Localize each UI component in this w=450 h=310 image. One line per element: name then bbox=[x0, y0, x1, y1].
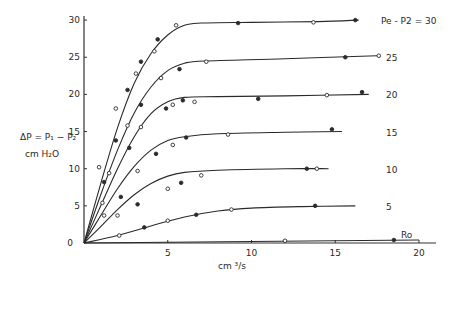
data-point bbox=[305, 167, 309, 171]
x-tick-label: 5 bbox=[165, 248, 171, 258]
data-point bbox=[143, 226, 147, 230]
data-point bbox=[315, 167, 319, 171]
data-point bbox=[153, 50, 157, 54]
data-point bbox=[136, 169, 140, 173]
curve-5 bbox=[84, 206, 355, 243]
data-point bbox=[166, 219, 170, 223]
x-tick-label: 10 bbox=[246, 248, 258, 258]
data-point bbox=[325, 93, 329, 97]
data-point bbox=[159, 76, 163, 80]
x-tick-label: 20 bbox=[413, 248, 425, 258]
series-label: 5 bbox=[386, 202, 392, 212]
data-point bbox=[126, 124, 130, 128]
data-point bbox=[181, 99, 185, 103]
data-point bbox=[360, 90, 364, 94]
data-point bbox=[154, 152, 158, 156]
x-tick-label: 15 bbox=[330, 248, 341, 258]
data-point bbox=[194, 213, 198, 217]
data-point bbox=[114, 107, 118, 111]
data-point bbox=[114, 139, 118, 143]
x-axis-label: cm ³/s bbox=[218, 261, 246, 271]
data-point bbox=[204, 60, 208, 64]
data-point bbox=[171, 143, 175, 147]
data-point bbox=[179, 181, 183, 185]
y-axis-label-line1: ΔP = P₁ − P₂ bbox=[20, 132, 77, 142]
data-point bbox=[256, 97, 260, 101]
y-tick-label: 5 bbox=[74, 201, 80, 211]
data-point bbox=[101, 201, 105, 205]
data-point bbox=[166, 187, 170, 191]
series-labels: Pe - P2 = 30252015105Ro bbox=[381, 16, 437, 240]
y-tick-label: 10 bbox=[69, 164, 81, 174]
axes bbox=[84, 16, 436, 243]
data-point bbox=[178, 67, 182, 71]
data-point bbox=[236, 21, 240, 25]
series-label: 10 bbox=[386, 165, 398, 175]
data-point bbox=[344, 55, 348, 59]
data-point bbox=[116, 214, 120, 218]
curves bbox=[84, 20, 419, 243]
series-label: 25 bbox=[386, 53, 397, 63]
data-point bbox=[174, 24, 178, 28]
data-point bbox=[313, 204, 317, 208]
data-point bbox=[312, 21, 316, 25]
data-point bbox=[117, 234, 121, 238]
data-point bbox=[171, 103, 175, 107]
data-point bbox=[184, 136, 188, 140]
data-point bbox=[139, 125, 143, 129]
y-tick-label: 25 bbox=[69, 52, 80, 62]
data-point bbox=[136, 203, 140, 207]
data-point bbox=[330, 128, 334, 132]
series-label: 20 bbox=[386, 90, 398, 100]
series-label: Pe - P2 = 30 bbox=[381, 16, 437, 26]
data-point bbox=[126, 88, 130, 92]
data-point bbox=[119, 195, 123, 199]
data-point bbox=[156, 38, 160, 42]
data-point bbox=[283, 239, 287, 243]
data-point bbox=[354, 18, 358, 22]
data-point bbox=[193, 100, 197, 104]
data-point bbox=[199, 174, 203, 178]
curve-4 bbox=[84, 169, 329, 243]
data-point bbox=[102, 214, 106, 218]
series-label: Ro bbox=[401, 230, 413, 240]
data-point bbox=[97, 165, 101, 169]
data-point bbox=[139, 60, 143, 64]
data-point bbox=[127, 146, 131, 150]
curve-3 bbox=[84, 132, 342, 243]
data-point bbox=[102, 180, 106, 184]
data-point bbox=[392, 238, 396, 242]
data-point bbox=[134, 72, 138, 76]
series-label: 15 bbox=[386, 128, 397, 138]
data-points bbox=[97, 18, 395, 242]
y-tick-label: 20 bbox=[69, 89, 81, 99]
y-axis-label-line2: cm H₂O bbox=[25, 149, 59, 159]
chart: 05101520 51015202530 Pe - P2 = 302520151… bbox=[0, 0, 450, 310]
data-point bbox=[226, 133, 230, 137]
data-point bbox=[107, 171, 111, 175]
data-point bbox=[230, 208, 234, 212]
data-point bbox=[164, 107, 168, 111]
y-tick-label: 30 bbox=[69, 15, 81, 25]
x-tick-label: 0 bbox=[67, 238, 73, 248]
data-point bbox=[377, 54, 381, 58]
data-point bbox=[139, 103, 143, 107]
